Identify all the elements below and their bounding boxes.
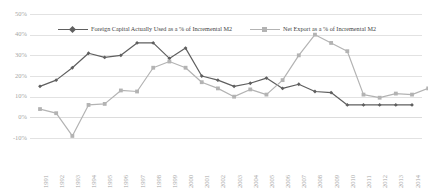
y-axis-tick-label: -10% (0, 135, 27, 142)
x-axis-tick-label: 2001 (204, 148, 211, 188)
x-axis-tick-label: 1996 (123, 148, 130, 188)
legend-label-net-export: Net Export as a % of Incremental M2 (283, 26, 376, 32)
series-marker (184, 66, 188, 70)
x-axis-tick-label: 1998 (156, 148, 163, 188)
series-marker (248, 81, 252, 85)
series-marker (297, 53, 301, 57)
series-marker (216, 87, 220, 91)
x-axis-tick-label: 2004 (253, 148, 260, 188)
chart-legend: Foreign Capital Actually Used as a % of … (58, 26, 376, 33)
y-axis-tick-label: 0% (0, 114, 27, 121)
series-marker (378, 103, 382, 107)
series-marker (313, 90, 317, 94)
x-axis-tick-label: 1993 (75, 148, 82, 188)
series-marker (329, 41, 333, 45)
x-axis-tick-label: 2002 (220, 148, 227, 188)
y-axis: 50%40%30%20%10%0%-10% (0, 0, 30, 194)
x-axis-tick-label: 2005 (269, 148, 276, 188)
series-marker (394, 103, 398, 107)
x-axis-tick-label: 1992 (59, 148, 66, 188)
x-axis-tick-label: 2006 (285, 148, 292, 188)
legend-label-foreign-capital: Foreign Capital Actually Used as a % of … (91, 26, 232, 32)
series-marker (103, 102, 107, 106)
y-axis-tick-label: 40% (0, 31, 27, 38)
series-marker (362, 103, 366, 107)
series-marker (54, 111, 58, 115)
series-marker (38, 107, 42, 111)
series-marker (119, 89, 123, 93)
y-axis-tick-label: 20% (0, 73, 27, 80)
x-axis-tick-label: 1994 (91, 148, 98, 188)
series-marker (410, 93, 414, 97)
x-axis: 1991199219931994199519961997199819992000… (30, 140, 422, 194)
series-marker (167, 60, 171, 64)
series-marker (394, 92, 398, 96)
x-axis-tick-label: 1997 (140, 148, 147, 188)
series-marker (265, 93, 269, 97)
series-marker (200, 80, 204, 84)
series-marker (345, 49, 349, 53)
x-axis-tick-label: 2003 (237, 148, 244, 188)
series-marker (297, 82, 301, 86)
legend-swatch-net-export (250, 26, 280, 33)
x-axis-tick-label: 1995 (107, 148, 114, 188)
series-marker (70, 134, 74, 138)
x-axis-tick-label: 1991 (43, 148, 50, 188)
series-marker (378, 96, 382, 100)
legend-item-net-export: Net Export as a % of Incremental M2 (250, 26, 376, 33)
series-marker (135, 90, 139, 94)
x-axis-tick-label: 1999 (172, 148, 179, 188)
x-axis-tick-label: 2007 (301, 148, 308, 188)
x-axis-tick-label: 2000 (188, 148, 195, 188)
y-axis-tick-label: 50% (0, 11, 27, 18)
x-axis-tick-label: 2008 (317, 148, 324, 188)
series-marker (151, 66, 155, 70)
x-axis-tick-label: 2009 (334, 148, 341, 188)
series-marker (103, 56, 107, 60)
x-axis-tick-label: 2012 (382, 148, 389, 188)
legend-item-foreign-capital: Foreign Capital Actually Used as a % of … (58, 26, 232, 33)
x-axis-tick-label: 2011 (366, 148, 373, 188)
series-marker (232, 84, 236, 88)
y-axis-tick-label: 30% (0, 52, 27, 59)
series-marker (232, 95, 236, 99)
series-marker (87, 103, 91, 107)
x-axis-tick-label: 2010 (350, 148, 357, 188)
series-marker (362, 93, 366, 97)
legend-swatch-foreign-capital (58, 26, 88, 33)
series-marker (281, 78, 285, 82)
series-marker (410, 103, 414, 107)
chart-container: 50%40%30%20%10%0%-10% Foreign Capital Ac… (0, 0, 428, 194)
x-axis-tick-label: 2014 (415, 148, 422, 188)
y-axis-tick-label: 10% (0, 93, 27, 100)
gridline (30, 138, 422, 139)
series-marker (216, 78, 220, 82)
series-marker (313, 33, 317, 37)
x-axis-tick-label: 2013 (398, 148, 405, 188)
series-marker (38, 84, 42, 88)
series-marker (248, 88, 252, 92)
